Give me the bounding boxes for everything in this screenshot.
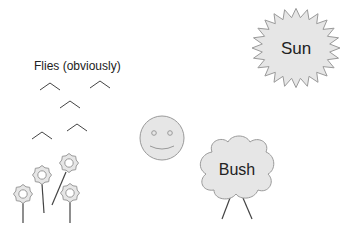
sun-shape: Sun [252,8,340,87]
smiley-face [140,116,184,160]
bush-leg-right [243,198,252,219]
flies-label: Flies (obviously) [34,59,121,73]
smiley-head [140,116,184,160]
sun-label: Sun [281,39,311,58]
fly-chevron-icon [60,101,80,108]
fly-chevron-icon [32,132,52,139]
fly-chevron-icon [90,81,110,88]
fly-chevron-icon [40,83,60,90]
bush-label: Bush [219,161,255,178]
flower [14,185,33,224]
flower [33,166,52,214]
flower [61,184,80,224]
diagram-canvas: Flies (obviously) Sun Bush [0,0,346,238]
flower-center [38,171,46,179]
flower-center [66,189,74,197]
flowers-group [14,154,80,224]
bush-leg-left [222,198,230,219]
bush-shape: Bush [200,136,273,219]
flies-group [32,81,110,139]
flower-stem [42,184,44,213]
flower-center [19,190,27,198]
fly-chevron-icon [67,124,87,131]
flower-center [65,159,73,167]
